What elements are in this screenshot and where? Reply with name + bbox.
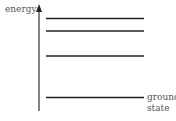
ground-state-label-line1: ground xyxy=(147,92,176,102)
ground-state-label-line2: state xyxy=(147,103,170,113)
arrowhead-icon xyxy=(36,4,42,12)
energy-axis-arrow xyxy=(36,4,42,111)
